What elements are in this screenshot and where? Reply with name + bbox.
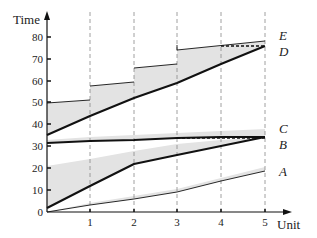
x-tick-labels: 1 2 3 4 5 [87,216,268,228]
y-tick-label: 10 [32,184,44,196]
vertical-gridlines [90,12,265,212]
y-tick-label: 60 [32,75,44,87]
chart: 0 10 20 30 40 50 60 70 80 1 2 3 4 5 Time… [0,0,317,238]
y-tick-label: 50 [32,96,44,108]
band-b [47,137,265,208]
series-labels: E D C B A [278,28,289,179]
y-tick-label: 80 [32,31,44,43]
y-tick-labels: 0 10 20 30 40 50 60 70 80 [32,31,44,218]
label-c: C [279,121,288,136]
y-axis-title: Time [13,12,40,27]
x-tick-label: 4 [218,216,224,228]
y-axis-arrow-icon [44,11,50,20]
shaded-bands [47,41,265,212]
label-e: E [278,28,287,43]
y-tick-label: 40 [32,118,44,130]
y-tick-label: 30 [32,140,44,152]
y-tick-label: 70 [32,53,44,65]
x-tick-label: 5 [262,216,268,228]
series-d-line [47,46,265,135]
label-a: A [278,164,287,179]
y-tick-label: 20 [32,162,44,174]
y-tick-label: 0 [38,206,44,218]
x-tick-label: 2 [131,216,137,228]
label-d: D [278,44,289,59]
x-axis-arrow-icon [283,209,292,215]
label-b: B [279,137,287,152]
x-tick-label: 3 [174,216,180,228]
x-tick-label: 1 [87,216,93,228]
x-axis-title: Unit [277,217,301,232]
